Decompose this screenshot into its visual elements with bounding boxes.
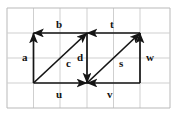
vector-label-a: a (22, 52, 28, 63)
vector-label-b: b (56, 19, 62, 30)
vector-label-u: u (56, 89, 62, 100)
vector-label-c: c (66, 58, 71, 69)
vector-label-d: d (77, 52, 83, 63)
vector-label-v: v (107, 89, 113, 100)
vector-label-w: w (146, 52, 154, 63)
vector-label-s: s (119, 58, 123, 69)
vector-label-t: t (110, 19, 114, 30)
vector-diagram-figure: abcudtswv (0, 0, 186, 123)
